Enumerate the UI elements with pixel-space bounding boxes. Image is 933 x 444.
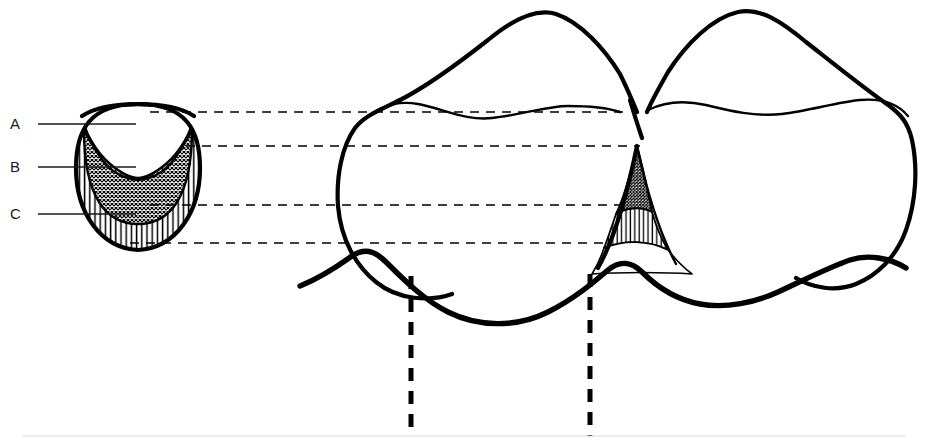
- tooth-view-group: [300, 11, 915, 436]
- anatomy-diagram-svg: A B C: [0, 0, 933, 444]
- right-molar-outline: [647, 11, 915, 288]
- figure-root: A B C: [0, 0, 933, 444]
- connector-line-group: [130, 112, 640, 243]
- right-molar-marginal-ridge: [648, 100, 908, 116]
- left-molar-marginal-ridge: [357, 103, 620, 126]
- interdental-papilla: [592, 146, 692, 274]
- label-c-text: C: [10, 205, 21, 222]
- label-a-text: A: [10, 115, 20, 132]
- label-b-text: B: [10, 158, 20, 175]
